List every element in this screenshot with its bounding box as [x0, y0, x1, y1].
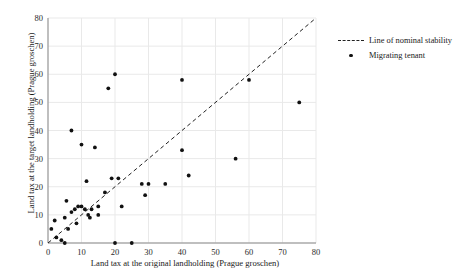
- data-point: [163, 182, 167, 186]
- scatter-chart-figure: 01020304050607080 01020304050607080 Land…: [0, 0, 467, 275]
- data-point: [147, 182, 151, 186]
- dashed-line-icon: [336, 40, 366, 42]
- data-point: [66, 227, 70, 231]
- x-tick-label: 70: [271, 247, 295, 257]
- data-point: [113, 72, 117, 76]
- data-point: [63, 241, 67, 245]
- x-tick-label: 80: [304, 247, 328, 257]
- data-point: [83, 207, 87, 211]
- data-point: [53, 219, 57, 223]
- data-point: [54, 235, 58, 239]
- data-point: [70, 129, 74, 133]
- data-point: [80, 143, 84, 147]
- data-point: [106, 86, 110, 90]
- data-point: [130, 241, 134, 245]
- data-point: [113, 241, 117, 245]
- data-point: [116, 176, 120, 180]
- x-tick-label: 20: [103, 247, 127, 257]
- data-point: [180, 78, 184, 82]
- x-axis-title: Land tax at the original landholding (Pr…: [0, 258, 370, 268]
- x-tick-label: 10: [70, 247, 94, 257]
- x-tick-label: 30: [137, 247, 161, 257]
- data-point: [180, 148, 184, 152]
- dot-marker-icon: [336, 54, 366, 57]
- data-point: [65, 199, 69, 203]
- chart-legend: Line of nominal stability Migrating tena…: [336, 33, 466, 63]
- x-tick-label: 60: [237, 247, 261, 257]
- data-point: [110, 176, 114, 180]
- data-point: [247, 78, 251, 82]
- data-point: [76, 205, 80, 209]
- legend-label: Line of nominal stability: [366, 36, 452, 45]
- data-point: [297, 100, 301, 104]
- data-point: [96, 205, 100, 209]
- data-point: [88, 216, 92, 220]
- x-tick-label: 0: [36, 247, 60, 257]
- data-point: [80, 205, 84, 209]
- data-point: [49, 227, 53, 231]
- data-point: [143, 193, 147, 197]
- data-point: [140, 182, 144, 186]
- x-tick-label: 50: [204, 247, 228, 257]
- data-point: [93, 145, 97, 149]
- data-point: [103, 190, 107, 194]
- data-point: [96, 213, 100, 217]
- data-point: [85, 179, 89, 183]
- data-point: [187, 174, 191, 178]
- data-point: [234, 157, 238, 161]
- data-point: [90, 207, 94, 211]
- x-tick-label: 40: [170, 247, 194, 257]
- data-points-layer: [48, 18, 316, 243]
- data-point: [73, 207, 77, 211]
- legend-label: Migrating tenant: [366, 51, 425, 60]
- data-point: [120, 205, 124, 209]
- y-axis-title: Land tax at the target landholding (Prag…: [26, 8, 36, 238]
- legend-item-migrating-tenant[interactable]: Migrating tenant: [336, 48, 466, 63]
- legend-item-line-of-nominal-stability[interactable]: Line of nominal stability: [336, 33, 466, 48]
- data-point: [75, 221, 79, 225]
- plot-area: [48, 18, 316, 243]
- data-point: [63, 216, 67, 220]
- data-point: [60, 238, 64, 242]
- data-point: [70, 210, 74, 214]
